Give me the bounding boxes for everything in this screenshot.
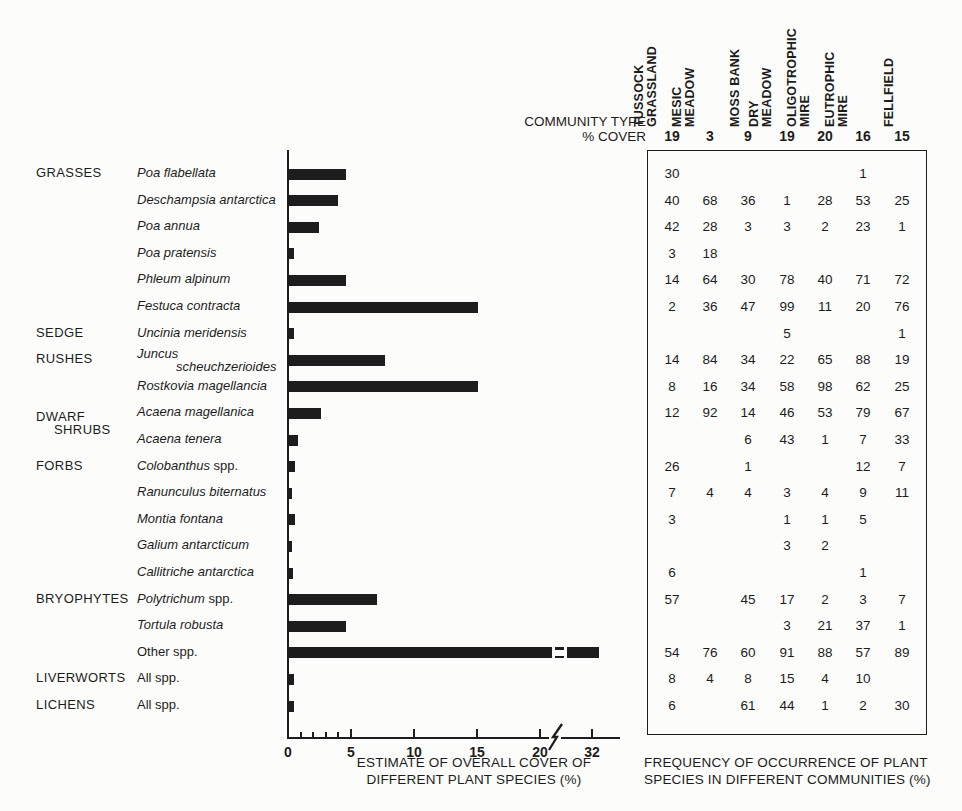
frequency-cell: 37 <box>843 618 883 634</box>
x-axis-caption-line2: DIFFERENT PLANT SPECIES (%) <box>314 772 634 789</box>
frequency-cell: 1 <box>805 698 845 714</box>
frequency-cell: 6 <box>652 698 692 714</box>
frequency-cell: 2 <box>805 219 845 235</box>
species-name: Phleum alpinum <box>137 272 230 285</box>
frequency-cell: 44 <box>767 698 807 714</box>
frequency-cell: 11 <box>805 299 845 315</box>
frequency-cell: 8 <box>652 671 692 687</box>
frequency-cell: 14 <box>652 352 692 368</box>
cover-bar-segment <box>289 647 552 658</box>
frequency-cell: 2 <box>843 698 883 714</box>
frequency-cell: 18 <box>690 246 730 262</box>
frequency-cell: 3 <box>843 592 883 608</box>
axis-tick-label: 10 <box>399 744 429 760</box>
figure-canvas: COMMUNITY TYPE % COVER ESTIMATE OF OVERA… <box>0 0 962 811</box>
frequency-cell: 42 <box>652 219 692 235</box>
community-cover-value: 19 <box>767 128 807 144</box>
frequency-cell: 54 <box>652 645 692 661</box>
community-cover-value: 9 <box>728 128 768 144</box>
frequency-cell: 9 <box>843 485 883 501</box>
frequency-cell: 36 <box>728 193 768 209</box>
frequency-cell: 8 <box>728 671 768 687</box>
frequency-cell: 60 <box>728 645 768 661</box>
frequency-cell: 1 <box>805 432 845 448</box>
species-name: Deschampsia antarctica <box>137 193 276 206</box>
frequency-cell: 5 <box>843 512 883 528</box>
species-label: Uncinia meridensis <box>137 326 247 339</box>
species-label: Montia fontana <box>137 512 223 525</box>
community-column-header: MESIC MEADOW <box>671 67 697 127</box>
bar-break-icon <box>555 647 564 650</box>
table-caption-line1: FREQUENCY OF OCCURRENCE OF PLANT <box>644 755 954 772</box>
frequency-cell: 23 <box>843 219 883 235</box>
frequency-cell: 65 <box>805 352 845 368</box>
category-label-line: LICHENS <box>36 698 95 711</box>
category-label: SEDGE <box>36 326 84 339</box>
community-column-header: EUTROPHIC MIRE <box>824 52 850 127</box>
frequency-cell: 88 <box>805 645 845 661</box>
category-label: LICHENS <box>36 698 95 711</box>
frequency-cell: 57 <box>652 592 692 608</box>
frequency-cell: 3 <box>767 485 807 501</box>
frequency-cell: 4 <box>690 671 730 687</box>
species-name: Uncinia meridensis <box>137 326 247 339</box>
species-name: All spp. <box>137 698 180 711</box>
frequency-cell: 40 <box>805 272 845 288</box>
frequency-cell: 68 <box>690 193 730 209</box>
frequency-cell: 20 <box>843 299 883 315</box>
frequency-cell: 1 <box>882 219 922 235</box>
cover-bar <box>289 302 478 313</box>
cover-bar <box>289 248 294 259</box>
cover-bar <box>289 195 338 206</box>
frequency-cell: 19 <box>882 352 922 368</box>
species-label: Acaena tenera <box>137 432 222 445</box>
frequency-cell: 2 <box>652 299 692 315</box>
cover-bar <box>289 568 293 579</box>
species-name: Galium antarcticum <box>137 538 249 551</box>
species-label: Ranunculus biternatus <box>137 485 266 498</box>
species-label: Festuca contracta <box>137 299 240 312</box>
frequency-cell: 91 <box>767 645 807 661</box>
frequency-cell: 33 <box>882 432 922 448</box>
species-name: Montia fontana <box>137 512 223 525</box>
category-label-line: LIVERWORTS <box>36 671 125 684</box>
frequency-cell: 28 <box>690 219 730 235</box>
frequency-cell: 7 <box>882 459 922 475</box>
table-caption-line2: SPECIES IN DIFFERENT COMMUNITIES (%) <box>644 772 954 789</box>
frequency-cell: 7 <box>652 485 692 501</box>
species-label: Juncusscheuchzerioides <box>137 347 276 373</box>
frequency-cell: 45 <box>728 592 768 608</box>
bar-break-icon <box>555 656 564 659</box>
cover-bar <box>289 381 478 392</box>
species-label: Callitriche antarctica <box>137 565 254 578</box>
frequency-cell: 89 <box>882 645 922 661</box>
cover-bar <box>289 408 321 419</box>
species-label: Acaena magellanica <box>137 405 254 418</box>
cover-bar <box>289 328 294 339</box>
frequency-cell: 11 <box>882 485 922 501</box>
frequency-cell: 64 <box>690 272 730 288</box>
frequency-cell: 76 <box>690 645 730 661</box>
cover-bar <box>289 514 295 525</box>
axis-major-tick <box>413 729 415 737</box>
frequency-cell: 88 <box>843 352 883 368</box>
category-label: RUSHES <box>36 352 93 365</box>
frequency-cell: 58 <box>767 379 807 395</box>
frequency-cell: 1 <box>843 565 883 581</box>
frequency-cell: 30 <box>882 698 922 714</box>
cover-bar-segment <box>567 647 599 658</box>
frequency-cell: 1 <box>805 512 845 528</box>
species-name: Acaena magellanica <box>137 405 254 418</box>
frequency-cell: 12 <box>652 405 692 421</box>
frequency-cell: 10 <box>843 671 883 687</box>
frequency-cell: 1 <box>728 459 768 475</box>
axis-tick-label: 0 <box>273 744 303 760</box>
cover-bar <box>289 355 385 366</box>
cover-bar <box>289 621 346 632</box>
frequency-cell: 40 <box>652 193 692 209</box>
community-cover-value: 20 <box>805 128 845 144</box>
cover-bar <box>289 701 294 712</box>
frequency-cell: 46 <box>767 405 807 421</box>
cover-bar <box>289 169 346 180</box>
frequency-cell: 4 <box>805 671 845 687</box>
